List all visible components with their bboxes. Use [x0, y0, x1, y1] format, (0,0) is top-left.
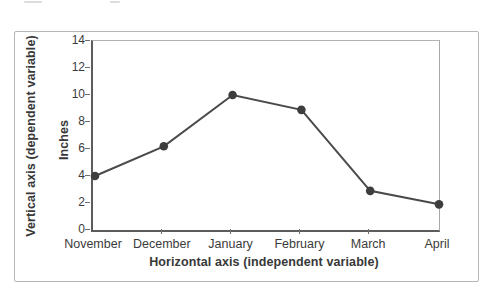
y-tick-mark	[85, 175, 90, 176]
line-plot	[93, 41, 439, 230]
data-point-november	[91, 172, 100, 181]
x-tick-label-february: February	[274, 237, 324, 251]
data-point-february	[297, 106, 306, 115]
y-tick-label: 14	[55, 32, 85, 48]
x-tick-mark	[161, 229, 162, 234]
x-tick-mark	[230, 229, 231, 234]
y-tick-mark	[85, 202, 90, 203]
x-tick-label-november: November	[64, 237, 122, 251]
x-tick-label-december: December	[133, 237, 191, 251]
y-tick-label: 4	[55, 167, 85, 183]
x-tick-label-march: March	[351, 237, 386, 251]
y-tick-mark	[85, 229, 90, 230]
x-tick-label-april: April	[424, 237, 449, 251]
x-tick-label-january: January	[208, 237, 252, 251]
x-tick-mark	[368, 229, 369, 234]
x-tick-mark	[299, 229, 300, 234]
data-point-december	[160, 142, 169, 151]
data-point-march	[366, 187, 375, 196]
x-axis-title: Horizontal axis (independent variable)	[91, 255, 437, 269]
y-tick-mark	[85, 148, 90, 149]
y-tick-label: 10	[55, 86, 85, 102]
y-tick-mark	[85, 94, 90, 95]
data-point-april	[435, 200, 444, 209]
y-tick-label: 12	[55, 59, 85, 75]
scan-artifact	[110, 1, 120, 3]
y-tick-mark	[85, 40, 90, 41]
y-tick-label: 8	[55, 113, 85, 129]
scan-artifact	[24, 1, 42, 3]
data-point-january	[228, 91, 237, 100]
y-tick-label: 6	[55, 140, 85, 156]
plot-area	[91, 40, 440, 232]
y-axis-title: Vertical axis (dependent variable)	[24, 35, 38, 236]
y-tick-label: 2	[55, 194, 85, 210]
y-tick-mark	[85, 67, 90, 68]
y-tick-label: 0	[55, 221, 85, 237]
data-line	[95, 95, 439, 204]
y-tick-mark	[85, 121, 90, 122]
chart-figure: Vertical axis (dependent variable) Inche…	[0, 0, 495, 296]
